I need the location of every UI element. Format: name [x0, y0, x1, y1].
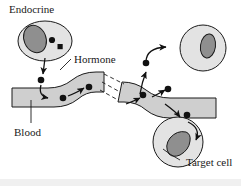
label-target-cell: Target cell [186, 156, 232, 168]
diagram-svg: Endocrine Hormone Blood Target cell [0, 0, 241, 186]
arrow-to-top-right-cell [146, 47, 166, 62]
label-blood: Blood [14, 126, 41, 138]
hormone-dot [184, 112, 191, 119]
label-hormone: Hormone [74, 53, 116, 65]
endocrine-granule-dot [49, 37, 55, 43]
label-endocrine: Endocrine [9, 3, 54, 15]
hormone-dot [38, 77, 45, 84]
footer-band [0, 179, 241, 186]
hormone-dot [86, 84, 93, 91]
hormone-dot [165, 86, 172, 93]
top-right-target-cell [180, 25, 226, 71]
hormone-dot [140, 92, 147, 99]
hormone-dot [143, 60, 150, 67]
hormone-dot [60, 95, 67, 102]
endocrine-cell [18, 21, 72, 61]
diagram-canvas: Endocrine Hormone Blood Target cell [0, 0, 241, 186]
leader-line-hormone [60, 59, 71, 70]
endocrine-granule-square [58, 44, 63, 49]
